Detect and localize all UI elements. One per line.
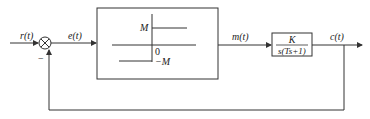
relay-upper-label: M	[139, 22, 149, 33]
block-diagram: r(t) − e(t) M 0 −M m(t) K s(Ts+1) c(t)	[0, 0, 370, 119]
output-label: c(t)	[330, 31, 345, 43]
input-label: r(t)	[20, 30, 34, 42]
plant-denominator: s(Ts+1)	[278, 46, 306, 56]
control-label: m(t)	[232, 31, 249, 43]
relay-lower-label: −M	[155, 56, 171, 67]
relay-block	[97, 8, 218, 79]
error-label: e(t)	[68, 30, 83, 42]
plant-numerator: K	[288, 34, 297, 45]
summing-junction	[39, 37, 51, 49]
feedback-sign: −	[38, 53, 44, 64]
